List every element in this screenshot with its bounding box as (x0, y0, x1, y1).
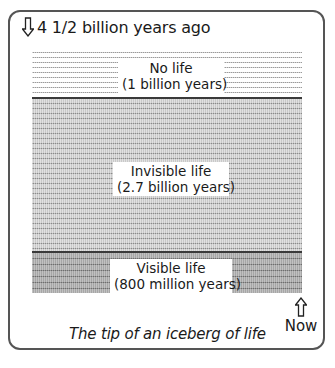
band-name: Invisible life (117, 163, 225, 179)
up-arrow-icon (284, 297, 318, 317)
label-invisible-life: Invisible life (2.7 billion years) (113, 162, 229, 196)
band-duration: (800 million years) (114, 276, 228, 292)
label-visible-life: Visible life (800 million years) (110, 259, 232, 293)
band-duration: (1 billion years) (122, 76, 220, 92)
band-name: No life (122, 60, 220, 76)
band-divider (32, 251, 302, 253)
diagram-caption: The tip of an iceberg of life (0, 325, 335, 343)
band-duration: (2.7 billion years) (117, 179, 225, 195)
timeline-start: 4 1/2 billion years ago (22, 17, 210, 37)
timeline-start-label: 4 1/2 billion years ago (37, 18, 210, 37)
band-name: Visible life (114, 260, 228, 276)
label-no-life: No life (1 billion years) (118, 59, 224, 93)
down-arrow-icon (22, 17, 34, 37)
band-divider (32, 97, 302, 99)
